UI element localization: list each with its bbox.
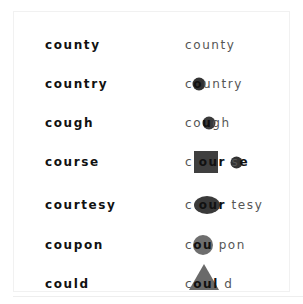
marked-word: coul d xyxy=(185,274,234,294)
divider xyxy=(13,296,303,297)
marked-word: cough xyxy=(185,113,231,133)
plain-word: coupon xyxy=(45,235,104,255)
plain-word: course xyxy=(45,152,100,172)
word-row: cough cough xyxy=(14,113,289,133)
plain-word: country xyxy=(45,74,108,94)
word-row: could coul d xyxy=(14,274,289,294)
word-row: country country xyxy=(14,74,289,94)
plain-word: courtesy xyxy=(45,195,116,215)
word-row: course c our se xyxy=(14,152,289,172)
plain-word: could xyxy=(45,274,90,294)
marked-word: cou pon xyxy=(185,235,246,255)
plain-word: county xyxy=(45,35,101,55)
marked-word: c our tesy xyxy=(185,195,263,215)
marked-word: country xyxy=(185,74,243,94)
marked-word: county xyxy=(185,35,236,55)
marked-word: c our se xyxy=(185,152,249,172)
word-row: county county xyxy=(14,35,289,55)
plain-word: cough xyxy=(45,113,94,133)
word-row: coupon cou pon xyxy=(14,235,289,255)
word-comparison-panel: county county country country cough coug… xyxy=(13,11,290,292)
word-row: courtesy c our tesy xyxy=(14,195,289,215)
